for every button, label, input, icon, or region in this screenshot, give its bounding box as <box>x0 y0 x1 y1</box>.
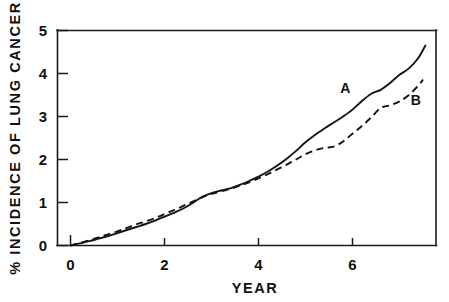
y-tick-label-3: 3 <box>39 108 47 125</box>
series-line-a <box>71 46 426 246</box>
y-tick-label-2: 2 <box>39 151 47 168</box>
y-tick-labels: 5 4 3 2 1 0 <box>39 22 48 254</box>
y-tick-label-0: 0 <box>39 237 47 254</box>
x-tick-label-0: 0 <box>66 256 74 273</box>
y-axis-ticks <box>58 31 68 246</box>
y-tick-label-4: 4 <box>39 65 48 82</box>
y-tick-label-1: 1 <box>39 194 47 211</box>
x-tick-label-4: 4 <box>254 256 263 273</box>
x-axis-ticks <box>71 235 353 245</box>
y-axis-title: % INCIDENCE OF LUNG CANCER <box>7 1 23 275</box>
x-tick-label-6: 6 <box>348 256 356 273</box>
series-label-b: B <box>411 92 421 108</box>
chart-figure: 5 4 3 2 1 0 0 2 4 6 A B YEAR % INCIDENCE… <box>0 0 449 302</box>
series-line-b <box>71 80 424 246</box>
x-tick-labels: 0 2 4 6 <box>66 256 356 273</box>
x-tick-label-2: 2 <box>160 256 168 273</box>
series-label-a: A <box>340 80 350 96</box>
x-axis-title: YEAR <box>232 280 279 296</box>
plot-frame <box>57 30 437 246</box>
lung-cancer-incidence-line-chart: 5 4 3 2 1 0 0 2 4 6 A B YEAR % INCIDENCE… <box>0 0 449 302</box>
y-tick-label-5: 5 <box>39 22 47 39</box>
